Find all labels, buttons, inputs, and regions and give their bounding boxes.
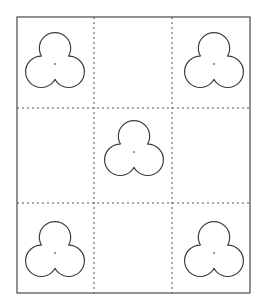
figure-root	[0, 0, 264, 307]
grid-and-shapes-svg	[0, 0, 264, 307]
